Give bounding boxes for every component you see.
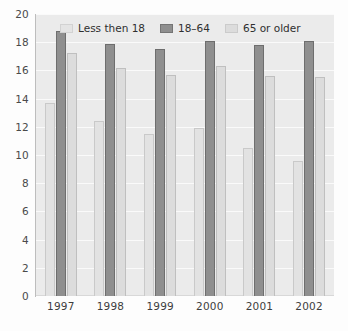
legend-swatch-icon — [60, 24, 73, 33]
bar-2000-65-or-older[interactable] — [216, 66, 226, 296]
bar-2001-18–64[interactable] — [254, 45, 264, 296]
legend-swatch-icon — [160, 24, 173, 33]
x-axis-tick-label: 2000 — [190, 300, 230, 320]
bar-group-2000 — [190, 14, 230, 296]
bar-1997-less-then-18[interactable] — [45, 103, 55, 296]
legend-item-2[interactable]: 65 or older — [225, 23, 301, 34]
legend-item-0[interactable]: Less then 18 — [60, 23, 145, 34]
y-axis-tick-label: 14 — [15, 93, 29, 105]
y-axis-tick-label: 2 — [22, 262, 29, 274]
x-axis-tick-label: 1997 — [41, 300, 81, 320]
bar-group-2002 — [289, 14, 329, 296]
bar-2000-less-then-18[interactable] — [194, 128, 204, 296]
bar-2002-less-then-18[interactable] — [293, 161, 303, 296]
bar-2002-65-or-older[interactable] — [315, 77, 325, 296]
bar-chart: 20181614121086420 Less then 1818–6465 or… — [0, 0, 348, 331]
x-axis-tick-label: 1999 — [140, 300, 180, 320]
y-axis-tick-label: 8 — [22, 177, 29, 189]
bar-1998-65-or-older[interactable] — [116, 68, 126, 296]
bar-1998-18–64[interactable] — [105, 44, 115, 296]
bar-1999-65-or-older[interactable] — [166, 75, 176, 296]
bar-2001-less-then-18[interactable] — [243, 148, 253, 296]
legend-label: Less then 18 — [78, 23, 145, 34]
y-axis-tick-label: 20 — [15, 8, 29, 20]
bar-1999-18–64[interactable] — [155, 49, 165, 296]
bar-2002-18–64[interactable] — [304, 41, 314, 296]
bar-1997-18–64[interactable] — [56, 31, 66, 296]
chart-legend: Less then 1818–6465 or older — [60, 23, 301, 34]
y-axis-tick-label: 6 — [22, 205, 29, 217]
y-axis-tick-label: 18 — [15, 36, 29, 48]
y-axis-tick-label: 12 — [15, 121, 29, 133]
bar-1999-less-then-18[interactable] — [144, 134, 154, 296]
bar-1998-less-then-18[interactable] — [94, 121, 104, 296]
x-axis-tick-label: 2001 — [239, 300, 279, 320]
y-axis-tick-label: 4 — [22, 234, 29, 246]
bar-group-1999 — [140, 14, 180, 296]
x-axis: 199719981999200020012002 — [36, 300, 334, 320]
bar-group-1997 — [41, 14, 81, 296]
x-axis-tick-label: 2002 — [289, 300, 329, 320]
legend-label: 65 or older — [243, 23, 301, 34]
bar-2001-65-or-older[interactable] — [265, 76, 275, 296]
y-axis-tick-label: 16 — [15, 64, 29, 76]
bar-group-2001 — [239, 14, 279, 296]
legend-swatch-icon — [225, 24, 238, 33]
bar-2000-18–64[interactable] — [205, 41, 215, 296]
legend-item-1[interactable]: 18–64 — [160, 23, 210, 34]
y-axis-tick-label: 0 — [22, 290, 29, 302]
bars-layer — [36, 14, 334, 296]
legend-label: 18–64 — [178, 23, 210, 34]
bar-1997-65-or-older[interactable] — [67, 53, 77, 296]
y-axis-tick-label: 10 — [15, 149, 29, 161]
x-axis-tick-label: 1998 — [90, 300, 130, 320]
y-axis: 20181614121086420 — [0, 14, 34, 296]
bar-group-1998 — [90, 14, 130, 296]
